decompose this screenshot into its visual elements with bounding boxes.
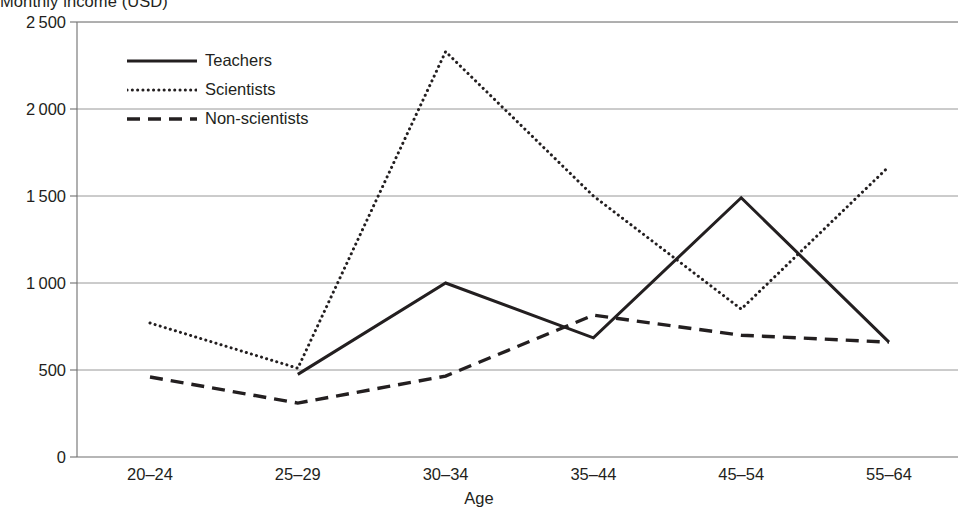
chart-legend: TeachersScientistsNon-scientists xyxy=(127,46,357,133)
legend-label: Non-scientists xyxy=(205,109,309,128)
legend-item-teachers[interactable]: Teachers xyxy=(127,46,357,75)
y-axis-ticks xyxy=(70,22,77,457)
series-line-non-scientists xyxy=(150,315,889,403)
x-tick-label: 30–34 xyxy=(423,465,469,484)
y-tick-label: 1 500 xyxy=(2,187,66,206)
y-tick-label: 2 500 xyxy=(2,13,66,32)
y-tick-label: 2 000 xyxy=(2,100,66,119)
x-axis-title: Age xyxy=(0,489,958,508)
series-line-teachers xyxy=(298,198,889,375)
chart-container: Monthly income (USD) 05001 0001 5002 000… xyxy=(0,0,958,513)
legend-item-non-scientists[interactable]: Non-scientists xyxy=(127,104,357,133)
legend-label: Teachers xyxy=(205,51,272,70)
x-tick-label: 45–54 xyxy=(718,465,764,484)
y-axis-tick-labels: 05001 0001 5002 0002 500 xyxy=(0,0,66,513)
legend-line-swatch xyxy=(127,54,197,68)
legend-line-swatch xyxy=(127,83,197,97)
x-tick-label: 25–29 xyxy=(275,465,321,484)
x-tick-label: 35–44 xyxy=(570,465,616,484)
y-tick-label: 0 xyxy=(2,448,66,467)
x-axis-tick-labels: 20–2425–2930–3435–4445–5455–64 xyxy=(77,465,958,489)
legend-label: Scientists xyxy=(205,80,276,99)
legend-item-scientists[interactable]: Scientists xyxy=(127,75,357,104)
y-tick-label: 1 000 xyxy=(2,274,66,293)
x-tick-label: 20–24 xyxy=(127,465,173,484)
y-tick-label: 500 xyxy=(2,361,66,380)
legend-line-swatch xyxy=(127,112,197,126)
x-tick-label: 55–64 xyxy=(866,465,912,484)
